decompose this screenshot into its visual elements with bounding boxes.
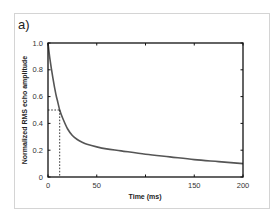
y-tick-label: 1.0 (33, 39, 43, 48)
data-curve (48, 43, 243, 164)
annotation-layer (48, 110, 60, 177)
x-tick-label: 200 (237, 181, 250, 190)
axes-box (48, 43, 243, 177)
y-axis-title: Normalized RMS echo amplitude (21, 56, 29, 165)
curve-layer (48, 43, 243, 164)
x-tick-label: 150 (188, 181, 201, 190)
y-tick-label: 0.2 (33, 146, 43, 155)
x-tick-label: 50 (93, 181, 101, 190)
line-chart: 05015020000.20.40.60.81.0 Time (ms) Norm… (0, 0, 279, 221)
x-axis-title: Time (ms) (129, 193, 162, 201)
axes (48, 43, 243, 177)
y-tick-label: 0 (39, 173, 43, 182)
y-tick-label: 0.8 (33, 65, 43, 74)
y-tick-label: 0.6 (33, 92, 43, 101)
tick-labels: 05015020000.20.40.60.81.0 (33, 39, 250, 190)
x-tick-label: 0 (46, 181, 50, 190)
y-tick-label: 0.4 (33, 119, 43, 128)
